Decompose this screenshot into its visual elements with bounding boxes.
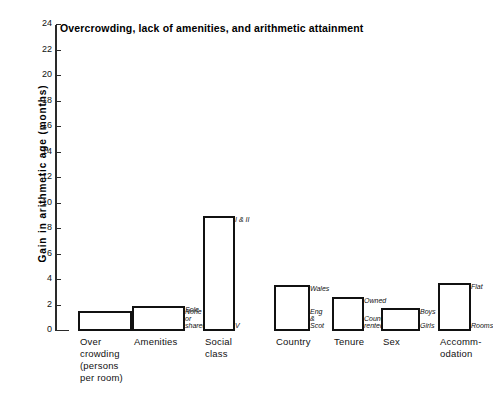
y-tick-label: 24 [42, 18, 52, 28]
y-tick-mark [56, 24, 61, 25]
bar-top-label: Wales [310, 285, 329, 292]
category-label: Amenities [134, 336, 178, 348]
bar-top-label: I & II [235, 216, 249, 223]
bar: OwnedCouncilrented [332, 297, 364, 331]
y-tick-label: 0 [47, 324, 52, 334]
y-tick-4: 4 [55, 279, 61, 280]
category-label: Tenure [334, 336, 364, 348]
y-tick-label: 4 [47, 273, 52, 283]
bar-bottom-label: Eng&Scot [310, 308, 324, 329]
y-tick-label: 8 [47, 222, 52, 232]
category-label: Overcrowding(personsper room) [80, 336, 123, 385]
y-tick-label: 20 [42, 69, 52, 79]
bar: <1.0)1.5 [78, 311, 132, 331]
y-tick-8: 8 [55, 228, 61, 229]
y-tick-mark [56, 305, 61, 306]
category-label: Socialclass [205, 336, 232, 360]
bar-top-label: Boys [420, 308, 436, 315]
bar-bottom-label: V [235, 322, 240, 329]
bar-bottom-label: Girls [420, 322, 434, 329]
y-tick-label: 14 [42, 146, 52, 156]
y-tick-mark [56, 254, 61, 255]
bar: BoysGirls [381, 308, 420, 331]
y-tick-22: 22 [55, 50, 61, 51]
y-tick-24: 24 [55, 24, 61, 25]
y-tick-label: 6 [47, 248, 52, 258]
y-tick-mark [56, 75, 61, 76]
bar-top-label: Flat [471, 283, 483, 290]
y-tick-label: 16 [42, 120, 52, 130]
y-tick-14: 14 [55, 152, 61, 153]
y-tick-label: 2 [47, 299, 52, 309]
bar: SoleNoneorshared [132, 306, 185, 332]
y-tick-label: 18 [42, 95, 52, 105]
bar: WalesEng&Scot [274, 285, 310, 331]
y-tick-mark [56, 177, 61, 178]
category-label: Country [276, 336, 311, 348]
y-tick-label: 12 [42, 171, 52, 181]
y-tick-mark [56, 228, 61, 229]
y-tick-mark [56, 101, 61, 102]
bar-bottom-label: Rooms [471, 322, 493, 329]
category-label: Accomm-odation [440, 336, 482, 360]
bar: I & IIV [203, 216, 235, 331]
y-tick-2: 2 [55, 305, 61, 306]
y-tick-16: 16 [55, 126, 61, 127]
bar-top-label: Owned [364, 297, 386, 304]
y-tick-mark [56, 50, 61, 51]
y-tick-12: 12 [55, 177, 61, 178]
y-tick-0: 0 [55, 330, 61, 331]
y-tick-mark [56, 126, 61, 127]
y-tick-label: 22 [42, 44, 52, 54]
y-tick-10: 10 [55, 203, 61, 204]
y-tick-mark [56, 330, 61, 331]
y-tick-20: 20 [55, 75, 61, 76]
y-tick-mark [56, 203, 61, 204]
plot-area: 242220181614121086420 <1.0)1.5SoleNoneor… [55, 25, 440, 331]
y-axis-line [55, 25, 57, 331]
y-tick-18: 18 [55, 101, 61, 102]
y-tick-mark [56, 152, 61, 153]
category-label: Sex [383, 336, 400, 348]
y-tick-mark [56, 279, 61, 280]
y-tick-6: 6 [55, 254, 61, 255]
y-tick-label: 10 [42, 197, 52, 207]
bar: FlatRooms [438, 283, 471, 331]
